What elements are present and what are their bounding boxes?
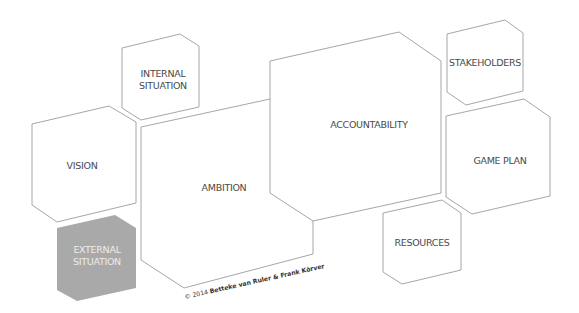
shape-resources: RESOURCES: [383, 200, 461, 284]
internal-situation-label: INTERNAL: [141, 68, 187, 79]
game-plan-label: GAME PLAN: [473, 155, 526, 166]
shape-game-plan: GAME PLAN: [446, 99, 550, 214]
stakeholders-label: STAKEHOLDERS: [449, 57, 521, 68]
ambition-label: AMBITION: [202, 182, 247, 193]
shape-internal-situation: INTERNALSITUATION: [122, 34, 199, 120]
accountability-label: ACCOUNTABILITY: [330, 119, 408, 130]
strategy-diagram: INTERNALSITUATIONVISIONAMBITIONACCOUNTAB…: [0, 0, 579, 313]
internal-situation-label: SITUATION: [139, 80, 187, 91]
shape-accountability: ACCOUNTABILITY: [270, 32, 441, 221]
shape-external-situation: EXTERNALSITUATION: [57, 215, 136, 301]
shape-vision: VISION: [32, 106, 136, 222]
shape-stakeholders: STAKEHOLDERS: [447, 20, 523, 105]
external-situation-label: SITUATION: [73, 256, 121, 267]
vision-label: VISION: [67, 160, 98, 171]
resources-label: RESOURCES: [394, 237, 449, 248]
external-situation-label: EXTERNAL: [73, 244, 121, 255]
